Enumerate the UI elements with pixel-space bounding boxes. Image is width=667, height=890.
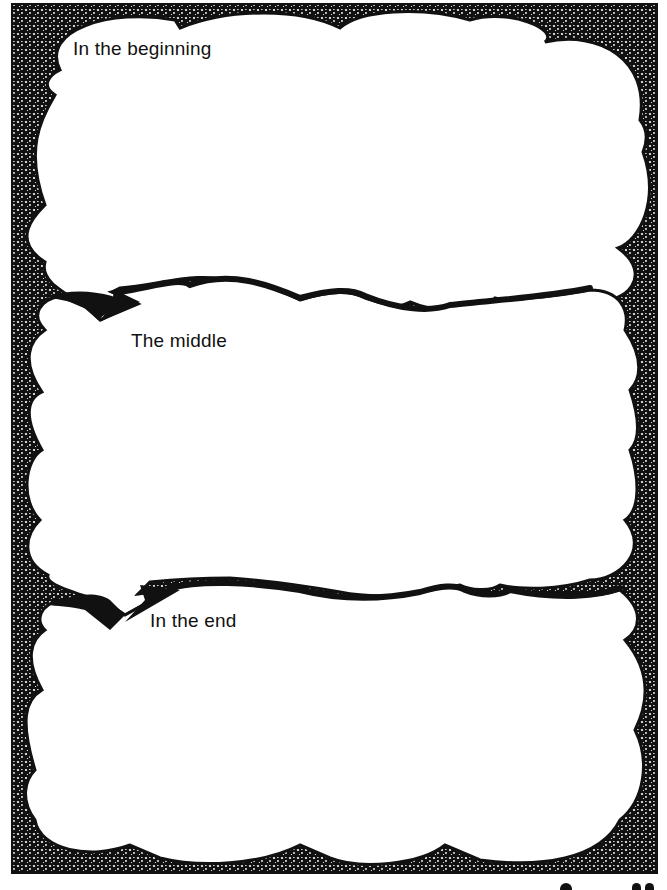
worksheet-page: In the beginning The middle In the end <box>0 0 667 890</box>
section-label-beginning: In the beginning <box>73 38 211 60</box>
section-label-end: In the end <box>150 610 237 632</box>
section-label-middle: The middle <box>131 330 227 352</box>
cloud-bubble-middle <box>27 279 639 615</box>
cloud-bubble-end <box>26 583 646 864</box>
cloud-frame-artwork <box>0 0 667 890</box>
cut-off-footer-text <box>560 883 667 890</box>
